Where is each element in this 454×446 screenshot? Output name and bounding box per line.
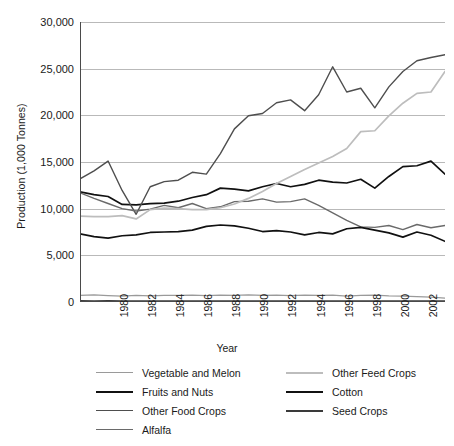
legend-line-swatch xyxy=(96,410,133,411)
plot-area xyxy=(80,22,445,302)
x-tick-label: 1992 xyxy=(268,304,280,344)
legend-item: Alfalfa xyxy=(96,420,241,439)
legend-item: Seed Crops xyxy=(286,401,416,420)
y-axis-line xyxy=(80,22,81,302)
legend-label: Seed Crops xyxy=(332,405,387,417)
x-tick-label: 2002 xyxy=(409,304,421,344)
y-tick-label: 30,000 xyxy=(16,17,74,27)
legend-item: Fruits and Nuts xyxy=(96,382,241,401)
y-tick-label: 10,000 xyxy=(16,204,74,214)
y-tick-label: 15,000 xyxy=(16,157,74,167)
legend-line-swatch xyxy=(286,372,323,374)
x-tick-label: 1994 xyxy=(297,304,309,344)
legend-line-swatch xyxy=(286,410,323,412)
x-tick-label: 1998 xyxy=(353,304,365,344)
legend-label: Alfalfa xyxy=(142,424,171,436)
legend-item: Cotton xyxy=(286,382,416,401)
legend-column-left: Vegetable and MelonFruits and NutsOther … xyxy=(96,363,241,439)
legend-column-right: Other Feed CropsCottonSeed Crops xyxy=(286,363,416,420)
legend-label: Fruits and Nuts xyxy=(142,386,213,398)
y-tick-label: 0 xyxy=(16,297,74,307)
x-axis-title: Year xyxy=(0,342,454,354)
legend-label: Cotton xyxy=(332,386,363,398)
x-tick-label: 2004 xyxy=(437,304,449,344)
legend-label: Other Feed Crops xyxy=(332,367,416,379)
x-tick-label: 1990 xyxy=(240,304,252,344)
x-tick-label: 1982 xyxy=(128,304,140,344)
legend-line-swatch xyxy=(286,391,323,393)
series-line xyxy=(80,193,445,230)
x-tick-label: 1988 xyxy=(212,304,224,344)
x-tick-label: 1984 xyxy=(156,304,168,344)
legend-item: Vegetable and Melon xyxy=(96,363,241,382)
production-line-chart: Production (1,000 Tonnes) 05,00010,00015… xyxy=(0,0,454,446)
x-tick-label: 2000 xyxy=(381,304,393,344)
legend-item: Other Food Crops xyxy=(96,401,241,420)
series-lines xyxy=(80,22,445,302)
series-line xyxy=(80,225,445,241)
x-axis-tick-labels: 1980198219841986198819901992199419961998… xyxy=(80,304,445,346)
series-line xyxy=(80,71,445,218)
legend-label: Other Food Crops xyxy=(142,405,226,417)
legend-line-swatch xyxy=(96,391,133,393)
legend-line-swatch xyxy=(96,372,133,373)
series-line xyxy=(80,55,445,215)
legend-label: Vegetable and Melon xyxy=(142,367,241,379)
legend-line-swatch xyxy=(96,429,133,430)
y-tick-label: 20,000 xyxy=(16,110,74,120)
legend-item: Other Feed Crops xyxy=(286,363,416,382)
x-tick-label: 1980 xyxy=(100,304,112,344)
y-tick-label: 5,000 xyxy=(16,250,74,260)
x-tick-label: 1986 xyxy=(184,304,196,344)
x-tick-label: 1996 xyxy=(325,304,337,344)
y-axis-tick-labels: 05,00010,00015,00020,00025,00030,000 xyxy=(12,0,74,320)
y-tick-label: 25,000 xyxy=(16,64,74,74)
